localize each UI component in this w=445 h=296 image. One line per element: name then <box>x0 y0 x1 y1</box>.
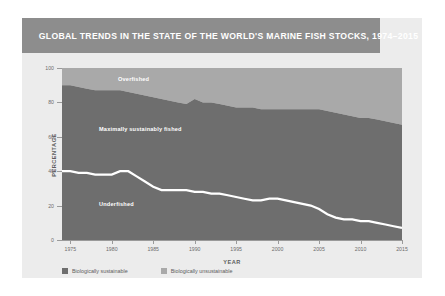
annotation-maximally-sustainably-fished: Maximally sustainably fished <box>99 126 182 132</box>
y-axis-tick-label: 20 <box>48 203 54 209</box>
legend: Biologically sustainable Biologically un… <box>62 268 232 274</box>
x-axis-tick-mark <box>153 240 154 244</box>
y-axis-tick-label: 100 <box>45 65 54 71</box>
x-axis-tick-label: 2010 <box>355 246 367 252</box>
x-axis-tick-label: 1990 <box>189 246 201 252</box>
title-banner: GLOBAL TRENDS IN THE STATE OF THE WORLD'… <box>22 18 380 53</box>
legend-item-unsustainable[interactable]: Biologically unsustainable <box>161 268 233 274</box>
page-title: GLOBAL TRENDS IN THE STATE OF THE WORLD'… <box>22 31 418 41</box>
plot-area <box>62 68 402 240</box>
x-axis-tick-label: 2005 <box>313 246 325 252</box>
legend-item-sustainable[interactable]: Biologically sustainable <box>62 268 128 274</box>
x-axis-tick-mark <box>236 240 237 244</box>
x-axis-tick-label: 1975 <box>65 246 77 252</box>
y-axis-tick-label: 60 <box>48 134 54 140</box>
x-axis-tick-mark <box>195 240 196 244</box>
x-axis-tick-mark <box>319 240 320 244</box>
x-axis-tick-label: 1980 <box>106 246 118 252</box>
x-axis-tick-label: 1995 <box>230 246 242 252</box>
x-axis-tick-mark <box>402 240 403 244</box>
x-axis-tick-mark <box>112 240 113 244</box>
x-axis-line <box>62 240 402 241</box>
stacked-area-series <box>62 68 402 240</box>
x-axis-tick-label: 2000 <box>272 246 284 252</box>
x-axis-tick-label: 1985 <box>147 246 159 252</box>
y-axis-tick-label: 0 <box>51 237 54 243</box>
legend-swatch-unsustainable <box>161 268 167 274</box>
x-axis-label: YEAR <box>223 259 241 265</box>
y-axis-tick-label: 80 <box>48 99 54 105</box>
x-axis-tick-mark <box>361 240 362 244</box>
legend-label-sustainable: Biologically sustainable <box>72 268 128 274</box>
legend-label-unsustainable: Biologically unsustainable <box>171 268 233 274</box>
chart-screenshot: GLOBAL TRENDS IN THE STATE OF THE WORLD'… <box>0 0 445 296</box>
y-axis-tick-label: 40 <box>48 168 54 174</box>
x-axis-tick-mark <box>278 240 279 244</box>
annotation-underfished: Underfished <box>99 201 134 207</box>
x-axis-tick-label: 2015 <box>396 246 408 252</box>
x-axis-tick-mark <box>70 240 71 244</box>
legend-swatch-sustainable <box>62 268 68 274</box>
annotation-overfished: Overfished <box>118 76 149 82</box>
